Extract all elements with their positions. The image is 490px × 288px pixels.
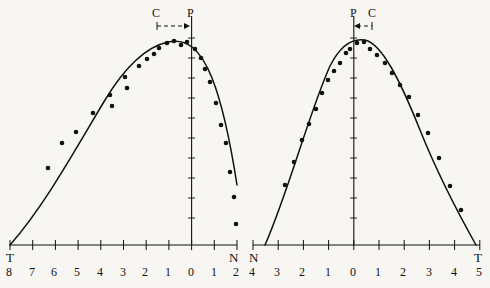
- left-tick-label-3: 3: [120, 265, 126, 280]
- left-tick-label-1r: 1: [211, 265, 217, 280]
- left-tick-label-5: 5: [74, 265, 80, 280]
- left-annotation-c: C: [152, 6, 160, 21]
- right-tick-label-1r: 1: [375, 265, 381, 280]
- left-panel: [10, 16, 238, 250]
- right-axis-end-label-right: T: [474, 250, 482, 266]
- right-panel: [253, 16, 480, 250]
- left-tick-label-1: 1: [165, 265, 171, 280]
- right-fitted-curve: [265, 40, 476, 245]
- right-data-points: [283, 40, 464, 213]
- left-annotation-p: P: [187, 6, 194, 21]
- right-tick-label-2r: 2: [400, 265, 406, 280]
- left-cp-annotation: [157, 22, 190, 30]
- left-data-points: [46, 39, 239, 227]
- right-tick-label-2: 2: [299, 265, 305, 280]
- left-tick-label-7: 7: [29, 265, 35, 280]
- right-tick-label-0: 0: [350, 265, 356, 280]
- left-tick-label-8: 8: [6, 265, 12, 280]
- right-tick-label-3: 3: [274, 265, 280, 280]
- left-axis-end-label-right: N: [229, 250, 238, 266]
- right-axis-end-label-left: N: [249, 250, 258, 266]
- right-annotation-c: C: [368, 6, 376, 21]
- chart-canvas: [0, 0, 490, 288]
- right-cp-annotation: [354, 22, 372, 30]
- right-tick-label-3r: 3: [426, 265, 432, 280]
- right-tick-label-5r: 5: [476, 265, 482, 280]
- left-tick-label-6: 6: [51, 265, 57, 280]
- right-tick-label-4: 4: [249, 265, 255, 280]
- left-fitted-curve: [10, 41, 237, 245]
- right-annotation-p: P: [350, 6, 357, 21]
- left-tick-label-2: 2: [142, 265, 148, 280]
- right-tick-label-1: 1: [325, 265, 331, 280]
- left-tick-label-4: 4: [97, 265, 103, 280]
- left-tick-label-0: 0: [188, 265, 194, 280]
- right-tick-label-4r: 4: [451, 265, 457, 280]
- left-axis-end-label-left: T: [6, 250, 14, 266]
- left-tick-label-2r: 2: [233, 265, 239, 280]
- chart-figure: T N 8 7 6 5 4 3 2 1 0 1 2 C P N T 4 3 2 …: [0, 0, 490, 288]
